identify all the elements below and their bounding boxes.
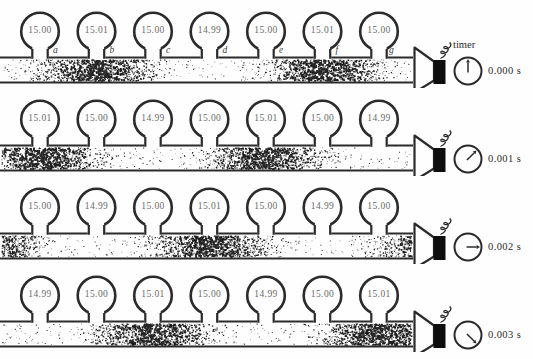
- clock-icon: [455, 234, 482, 261]
- speaker-icon: [415, 219, 451, 265]
- stipple-air-molecules-dense: [20, 59, 401, 82]
- pressure-gauge: [191, 101, 229, 147]
- gauge-reading: 15.01: [133, 289, 173, 299]
- snapshot-row-1: 15.01 15.00 14.99 15.00 15.01 15.00 14.9…: [0, 88, 533, 176]
- gauge-reading: 15.00: [359, 25, 399, 35]
- pressure-gauge: [304, 189, 342, 235]
- speaker-icon: [415, 131, 451, 177]
- coil-wire: [441, 131, 451, 147]
- gauge-reading: 15.00: [190, 289, 230, 299]
- gauge-reading: 15.01: [303, 25, 343, 35]
- pressure-gauge: [21, 101, 59, 147]
- pressure-gauge: [21, 189, 59, 235]
- gauge-reading: 15.00: [303, 289, 343, 299]
- clock-icon: [455, 322, 482, 349]
- pressure-gauge: [360, 101, 398, 147]
- pressure-gauge: [304, 277, 342, 323]
- pressure-gauge: [304, 101, 342, 147]
- coil-wire: [441, 307, 451, 323]
- stipple-air-molecules-dense: [2, 147, 347, 170]
- gauge-reading: 15.01: [359, 289, 399, 299]
- pressure-gauge: [191, 277, 229, 323]
- coil-wire: [441, 219, 451, 235]
- gauge-reading: 15.01: [246, 113, 286, 123]
- stipple-air-molecules-dense: [2, 323, 412, 346]
- time-readout: 0.000 s: [488, 65, 521, 76]
- sound-wave-tube-figure: 15.00 15.01 15.00 14.99 15.00 15.01 15.0…: [0, 0, 533, 359]
- gauge-letter: d: [223, 45, 237, 55]
- gauge-reading: 15.01: [77, 25, 117, 35]
- gauge-reading: 15.01: [190, 201, 230, 211]
- pressure-gauge: [247, 101, 285, 147]
- gauge-reading: 14.99: [20, 289, 60, 299]
- timer-label: timer: [453, 39, 475, 50]
- gauge-reading: 14.99: [190, 25, 230, 35]
- gauge-letter: f: [336, 45, 350, 55]
- speaker-driver: [434, 324, 446, 348]
- pressure-gauge: [360, 277, 398, 323]
- gauge-reading: 15.00: [190, 113, 230, 123]
- clock-icon: [455, 146, 482, 173]
- pressure-gauge: [134, 101, 172, 147]
- gauge-reading: 15.00: [359, 201, 399, 211]
- gauge-reading: 14.99: [359, 113, 399, 123]
- pressure-gauge: [247, 277, 285, 323]
- pressure-gauge: [21, 277, 59, 323]
- gauge-reading: 15.00: [133, 201, 173, 211]
- gauge-reading: 15.00: [20, 201, 60, 211]
- pressure-gauge: [134, 277, 172, 323]
- time-readout: 0.003 s: [488, 329, 521, 340]
- speaker-driver: [434, 60, 446, 84]
- speaker-icon: [415, 307, 451, 353]
- gauge-letter: a: [53, 45, 67, 55]
- gauge-reading: 15.00: [133, 25, 173, 35]
- gauge-letter: b: [110, 45, 124, 55]
- gauge-reading: 15.00: [303, 113, 343, 123]
- gauge-reading: 15.00: [77, 113, 117, 123]
- coil-wire: [441, 43, 451, 59]
- pressure-gauge: [78, 101, 116, 147]
- gauge-letter: g: [389, 45, 403, 55]
- clock-icon: [455, 58, 482, 85]
- pressure-gauge: [191, 189, 229, 235]
- snapshot-row-2: 15.00 14.99 15.00 15.01 15.00 14.99 15.0…: [0, 176, 533, 264]
- gauge-reading: 14.99: [246, 289, 286, 299]
- gauge-reading: 14.99: [77, 201, 117, 211]
- gauge-reading: 15.01: [20, 113, 60, 123]
- gauge-letter: c: [166, 45, 180, 55]
- gauge-reading: 14.99: [303, 201, 343, 211]
- pressure-gauge: [78, 189, 116, 235]
- speaker-driver: [434, 236, 446, 260]
- tube-drawing-1: [0, 88, 533, 176]
- gauge-reading: 14.99: [133, 113, 173, 123]
- gauge-reading: 15.00: [246, 201, 286, 211]
- speaker-driver: [434, 148, 446, 172]
- time-readout: 0.001 s: [488, 153, 521, 164]
- tube-drawing-3: [0, 264, 533, 352]
- stipple-air-molecules-dense: [2, 235, 413, 258]
- tube-drawing-2: [0, 176, 533, 264]
- pressure-gauge: [134, 189, 172, 235]
- gauge-reading: 15.00: [20, 25, 60, 35]
- time-readout: 0.002 s: [488, 241, 521, 252]
- pressure-gauge: [78, 277, 116, 323]
- gauge-letter: e: [279, 45, 293, 55]
- pressure-gauge: [247, 189, 285, 235]
- speaker-icon: [415, 43, 451, 88]
- snapshot-row-0: 15.00 15.01 15.00 14.99 15.00 15.01 15.0…: [0, 0, 533, 88]
- snapshot-row-3: 14.99 15.00 15.01 15.00 14.99 15.00 15.0…: [0, 264, 533, 352]
- pressure-gauge: [360, 189, 398, 235]
- gauge-reading: 15.00: [77, 289, 117, 299]
- gauge-reading: 15.00: [246, 25, 286, 35]
